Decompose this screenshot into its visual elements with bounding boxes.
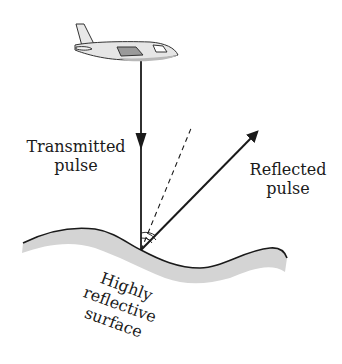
reflected-label-line2: pulse	[246, 179, 330, 198]
transmitted-label-line2: pulse	[20, 156, 132, 175]
surface-normal-line	[141, 126, 192, 250]
reflected-pulse-label: Reflected pulse	[246, 160, 330, 198]
lidar-diagram: Transmitted pulse Reflected pulse Highly…	[0, 0, 342, 364]
airplane-icon	[75, 24, 178, 61]
transmitted-pulse-label: Transmitted pulse	[20, 137, 132, 175]
reflected-label-line1: Reflected	[246, 160, 330, 179]
reflected-pulse-arrow	[141, 132, 257, 250]
transmitted-pulse-arrow	[136, 52, 147, 250]
transmitted-label-line1: Transmitted	[20, 137, 132, 156]
